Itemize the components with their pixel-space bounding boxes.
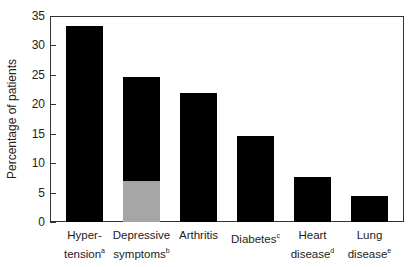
bar <box>237 136 274 222</box>
y-tick <box>50 163 56 164</box>
bar <box>180 93 217 222</box>
y-tick-label: 20 <box>32 97 45 111</box>
y-tick <box>50 16 56 17</box>
bar <box>123 77 160 222</box>
bar-subsegment <box>123 181 160 222</box>
x-tick-label: Diabetesc <box>231 228 280 247</box>
x-tick-label: Arthritis <box>179 228 218 243</box>
y-tick-label: 0 <box>38 215 45 229</box>
y-tick-label: 35 <box>32 9 45 23</box>
bar <box>294 177 331 222</box>
bar <box>351 196 388 222</box>
y-tick-label: 30 <box>32 38 45 52</box>
y-tick <box>50 193 56 194</box>
y-tick-label: 15 <box>32 127 45 141</box>
plot-area-frame <box>50 16 404 222</box>
y-tick <box>50 75 56 76</box>
x-tick-label: Heartdiseased <box>291 228 335 262</box>
x-tick-label: Depressivesymptomsb <box>113 228 171 262</box>
x-tick-label: Hyper-tensiona <box>64 228 105 262</box>
y-tick <box>50 222 56 223</box>
y-axis-label: Percentage of patients <box>5 59 19 179</box>
y-tick-label: 25 <box>32 68 45 82</box>
y-tick-label: 5 <box>38 186 45 200</box>
y-tick-label: 10 <box>32 156 45 170</box>
y-tick <box>50 45 56 46</box>
y-tick <box>50 104 56 105</box>
y-tick <box>50 134 56 135</box>
bar <box>66 26 103 222</box>
x-tick-label: Lungdiseasee <box>348 228 392 262</box>
